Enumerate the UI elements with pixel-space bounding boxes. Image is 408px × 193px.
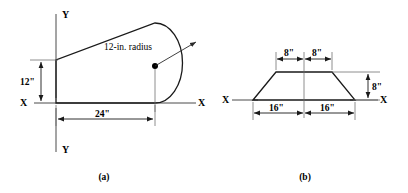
panel-a-height-label: 12" bbox=[20, 77, 35, 87]
panel-a-y-top-label: Y bbox=[62, 9, 70, 20]
figure-canvas: Y Y X X 12" 24" 12-in. radius (a) bbox=[0, 0, 408, 193]
panel-a-radius-note: 12-in. radius bbox=[104, 42, 152, 52]
panel-a-caption: (a) bbox=[98, 172, 109, 183]
panel-b-x-left-label: X bbox=[222, 94, 230, 105]
panel-a-radius-leader bbox=[155, 42, 196, 66]
panel-b-top-left-label: 8" bbox=[284, 48, 294, 58]
panel-a-x-right-label: X bbox=[198, 97, 206, 108]
panel-b-caption: (b) bbox=[299, 172, 311, 183]
panel-b-top-right-label: 8" bbox=[312, 48, 322, 58]
panel-a-x-left-label: X bbox=[20, 97, 28, 108]
panel-a-y-bottom-label: Y bbox=[62, 144, 70, 155]
panel-b-x-right-label: X bbox=[380, 94, 388, 105]
panel-b-bottom-right-label: 16" bbox=[320, 103, 335, 113]
technical-figure: Y Y X X 12" 24" 12-in. radius (a) bbox=[0, 0, 408, 193]
panel-b-height-label: 8" bbox=[372, 82, 382, 92]
panel-a-shape-outline bbox=[56, 23, 183, 103]
panel-a-width-label: 24" bbox=[95, 109, 110, 119]
panel-b-bottom-left-label: 16" bbox=[269, 103, 284, 113]
